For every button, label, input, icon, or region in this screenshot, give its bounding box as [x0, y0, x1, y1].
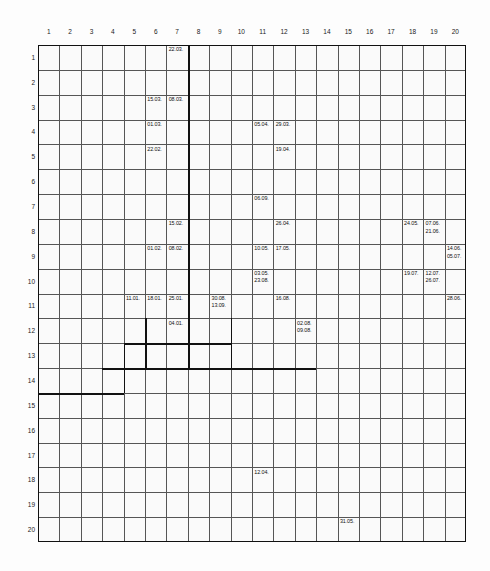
row-header-9[interactable]: 9	[18, 244, 38, 269]
column-header-7[interactable]: 7	[166, 27, 187, 37]
row-header-10[interactable]: 10	[18, 269, 38, 294]
gridline-horizontal-2	[38, 95, 466, 96]
date-entry-r9-c12[interactable]: 17.05.	[274, 245, 295, 253]
row-header-1[interactable]: 1	[18, 45, 38, 70]
date-entry-r12-c7[interactable]: 04.01.	[167, 320, 188, 328]
row-header-18[interactable]: 18	[18, 467, 38, 492]
date-entry-r11-c6[interactable]: 18.01.	[146, 295, 167, 303]
row-header-7[interactable]: 7	[18, 194, 38, 219]
row-header-4[interactable]: 4	[18, 120, 38, 145]
date-entry-r12-c13[interactable]: 02.08.09.08.	[296, 320, 317, 335]
date-entry-r1-c7[interactable]: 22.03.	[167, 46, 188, 54]
date-entry-r20-c15[interactable]: 31.05.	[338, 518, 359, 526]
date-label: 23.08.	[254, 277, 274, 285]
date-entry-r8-c7[interactable]: 15.02.	[167, 220, 188, 228]
date-entry-r5-c6[interactable]: 22.02.	[146, 146, 167, 154]
date-entry-r11-c9[interactable]: 30.08.13.09.	[210, 295, 231, 310]
date-entry-r10-c18[interactable]: 19.07.	[403, 270, 424, 278]
row-header-11[interactable]: 11	[18, 294, 38, 319]
date-label: 08.03.	[169, 96, 189, 104]
row-header-13[interactable]: 13	[18, 343, 38, 368]
date-entry-r11-c12[interactable]: 16.08.	[274, 295, 295, 303]
date-label: 28.06.	[447, 295, 467, 303]
date-entry-r4-c12[interactable]: 29.03.	[274, 121, 295, 129]
date-label: 14.06.	[447, 245, 467, 253]
column-header-4[interactable]: 4	[102, 27, 123, 37]
column-header-13[interactable]: 13	[295, 27, 316, 37]
date-entry-r9-c7[interactable]: 08.02.	[167, 245, 188, 253]
date-label: 21.06.	[426, 228, 446, 236]
column-header-1[interactable]: 1	[38, 27, 59, 37]
date-entry-r5-c12[interactable]: 19.04.	[274, 146, 295, 154]
heavy-segment-horizontal-1	[102, 368, 316, 370]
column-header-12[interactable]: 12	[273, 27, 294, 37]
row-header-16[interactable]: 16	[18, 418, 38, 443]
date-entry-r4-c11[interactable]: 05.04.	[253, 121, 274, 129]
row-header-14[interactable]: 14	[18, 368, 38, 393]
date-entry-r8-c18[interactable]: 24.05.	[403, 220, 424, 228]
date-entry-r18-c11[interactable]: 12.04.	[253, 469, 274, 477]
column-header-row: 1234567891011121314151617181920	[38, 27, 466, 43]
date-entry-r3-c7[interactable]: 08.03.	[167, 96, 188, 104]
date-label: 11.01.	[126, 295, 146, 303]
gridline-horizontal-18	[38, 492, 466, 493]
date-label: 07.06.	[426, 220, 446, 228]
row-header-6[interactable]: 6	[18, 169, 38, 194]
column-header-2[interactable]: 2	[59, 27, 80, 37]
date-entry-r9-c11[interactable]: 10.05.	[253, 245, 274, 253]
date-entry-r9-c20[interactable]: 14.06.05.07.	[445, 245, 466, 260]
column-header-19[interactable]: 19	[423, 27, 444, 37]
column-header-6[interactable]: 6	[145, 27, 166, 37]
column-header-8[interactable]: 8	[188, 27, 209, 37]
row-header-5[interactable]: 5	[18, 144, 38, 169]
date-entry-r11-c5[interactable]: 11.01.	[124, 295, 145, 303]
date-entry-r10-c11[interactable]: 03.05.23.08.	[253, 270, 274, 285]
date-label: 12.07.	[426, 270, 446, 278]
date-entry-r10-c19[interactable]: 12.07.26.07.	[424, 270, 445, 285]
date-entry-r3-c6[interactable]: 15.03.	[146, 96, 167, 104]
column-header-9[interactable]: 9	[209, 27, 230, 37]
date-label: 04.01.	[169, 320, 189, 328]
date-label: 05.07.	[447, 253, 467, 261]
column-header-17[interactable]: 17	[380, 27, 401, 37]
column-header-14[interactable]: 14	[316, 27, 337, 37]
gridline-horizontal-15	[38, 418, 466, 419]
row-header-8[interactable]: 8	[18, 219, 38, 244]
column-header-20[interactable]: 20	[445, 27, 466, 37]
heavy-segment-horizontal-0	[124, 343, 231, 345]
column-header-3[interactable]: 3	[81, 27, 102, 37]
column-header-18[interactable]: 18	[402, 27, 423, 37]
gridline-horizontal-5	[38, 169, 466, 170]
gridline-horizontal-12	[38, 343, 466, 344]
date-label: 26.07.	[426, 277, 446, 285]
row-header-20[interactable]: 20	[18, 517, 38, 542]
row-header-12[interactable]: 12	[18, 318, 38, 343]
date-entry-r9-c6[interactable]: 01.02.	[146, 245, 167, 253]
row-header-17[interactable]: 17	[18, 443, 38, 468]
row-header-19[interactable]: 19	[18, 492, 38, 517]
date-label: 24.05.	[404, 220, 424, 228]
date-entry-r7-c11[interactable]: 06.09.	[253, 195, 274, 203]
date-entry-r4-c6[interactable]: 01.03.	[146, 121, 167, 129]
row-header-3[interactable]: 3	[18, 95, 38, 120]
date-label: 16.08.	[276, 295, 296, 303]
gridline-horizontal-11	[38, 318, 466, 319]
date-entry-r8-c19[interactable]: 07.06.21.06.	[424, 220, 445, 235]
date-label: 10.05.	[254, 245, 274, 253]
date-entry-r11-c20[interactable]: 28.06.	[445, 295, 466, 303]
gridline-horizontal-10	[38, 294, 466, 295]
date-label: 05.04.	[254, 121, 274, 129]
column-header-15[interactable]: 15	[338, 27, 359, 37]
column-header-5[interactable]: 5	[124, 27, 145, 37]
column-header-10[interactable]: 10	[231, 27, 252, 37]
row-header-2[interactable]: 2	[18, 70, 38, 95]
date-label: 09.08.	[297, 327, 317, 335]
gridline-horizontal-16	[38, 443, 466, 444]
date-entry-r8-c12[interactable]: 26.04.	[274, 220, 295, 228]
column-header-16[interactable]: 16	[359, 27, 380, 37]
grid-body[interactable]: 22.03.15.03.08.03.01.03.05.04.29.03.22.0…	[38, 45, 466, 542]
column-header-11[interactable]: 11	[252, 27, 273, 37]
row-header-15[interactable]: 15	[18, 393, 38, 418]
date-entry-r11-c7[interactable]: 25.01.	[167, 295, 188, 303]
date-label: 15.02.	[169, 220, 189, 228]
